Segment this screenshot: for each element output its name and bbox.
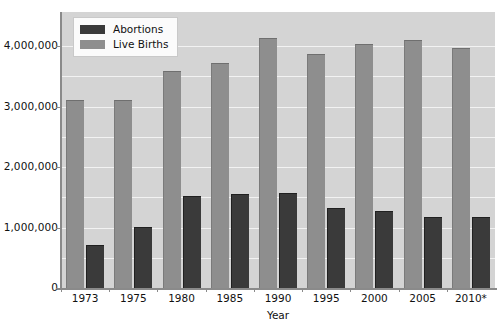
x-tick-label: 2005 — [398, 292, 448, 305]
y-tick-mark — [56, 167, 60, 168]
live-births-swatch-icon — [80, 40, 105, 49]
bar-abortions — [327, 208, 345, 290]
bar-live-births — [66, 100, 84, 289]
bar-group — [355, 12, 393, 289]
legend-label-live-births: Live Births — [113, 38, 168, 51]
x-tick-mark — [157, 289, 158, 292]
x-tick-mark — [350, 289, 351, 292]
y-tick-mark — [56, 228, 60, 229]
bar-abortions — [279, 193, 297, 289]
x-tick-label: 2000 — [349, 292, 399, 305]
bar-live-births — [355, 44, 373, 289]
x-tick-mark — [206, 289, 207, 292]
x-tick-mark — [109, 289, 110, 292]
bar-group — [307, 12, 345, 289]
y-tick-label: 2,000,000 — [2, 161, 58, 172]
bar-live-births — [307, 54, 325, 289]
x-tick-label: 1973 — [60, 292, 110, 305]
x-tick-mark — [254, 289, 255, 292]
bar-live-births — [404, 40, 422, 289]
legend-item-abortions: Abortions — [80, 22, 168, 37]
bar-live-births — [211, 63, 229, 290]
bar-group — [404, 12, 442, 289]
y-tick-mark — [56, 46, 60, 47]
y-tick-label: 4,000,000 — [2, 40, 58, 51]
x-tick-mark — [61, 289, 62, 292]
bar-abortions — [183, 196, 201, 289]
bar-abortions — [375, 211, 393, 289]
x-tick-label: 1995 — [301, 292, 351, 305]
bar-abortions — [86, 245, 104, 289]
legend: Abortions Live Births — [73, 17, 178, 57]
bar-abortions — [231, 194, 249, 289]
x-axis-title: Year — [61, 309, 495, 321]
bar-live-births — [452, 48, 470, 289]
x-tick-label: 1975 — [108, 292, 158, 305]
y-axis-ticks: 01,000,0002,000,0003,000,0004,000,000 — [0, 0, 58, 331]
y-tick-label: 1,000,000 — [2, 222, 58, 233]
bar-group — [211, 12, 249, 289]
abortions-swatch-icon — [80, 25, 105, 34]
x-tick-mark — [399, 289, 400, 292]
x-tick-label: 1985 — [205, 292, 255, 305]
bar-abortions — [424, 217, 442, 289]
bar-live-births — [114, 100, 132, 289]
x-tick-label: 1990 — [253, 292, 303, 305]
legend-label-abortions: Abortions — [113, 23, 163, 36]
y-axis-line — [60, 12, 62, 289]
bar-live-births — [163, 71, 181, 289]
y-tick-label: 0 — [2, 282, 58, 293]
bar-abortions — [134, 227, 152, 289]
y-tick-mark — [56, 288, 60, 289]
y-tick-mark — [56, 107, 60, 108]
bar-group — [452, 12, 490, 289]
x-tick-label: 1980 — [157, 292, 207, 305]
bar-chart: 01,000,0002,000,0003,000,0004,000,000 19… — [0, 0, 503, 331]
y-tick-label: 3,000,000 — [2, 101, 58, 112]
x-tick-mark — [447, 289, 448, 292]
legend-item-live-births: Live Births — [80, 37, 168, 52]
x-axis-line — [57, 288, 497, 290]
bar-abortions — [472, 217, 490, 289]
x-tick-label: 2010* — [446, 292, 496, 305]
bar-group — [259, 12, 297, 289]
bar-live-births — [259, 38, 277, 289]
x-tick-mark — [302, 289, 303, 292]
